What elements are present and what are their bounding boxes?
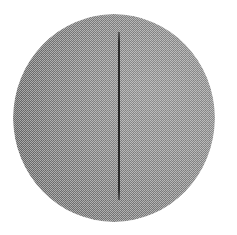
vertical-seam-line — [118, 32, 120, 200]
figure-caption — [0, 0, 1, 1]
scale-bar-label — [0, 0, 1, 1]
corner-label — [0, 0, 1, 1]
sphere-graphic — [13, 14, 215, 222]
figure-canvas — [0, 0, 237, 235]
sphere-body — [13, 14, 215, 222]
sphere-grain-texture — [13, 14, 215, 222]
